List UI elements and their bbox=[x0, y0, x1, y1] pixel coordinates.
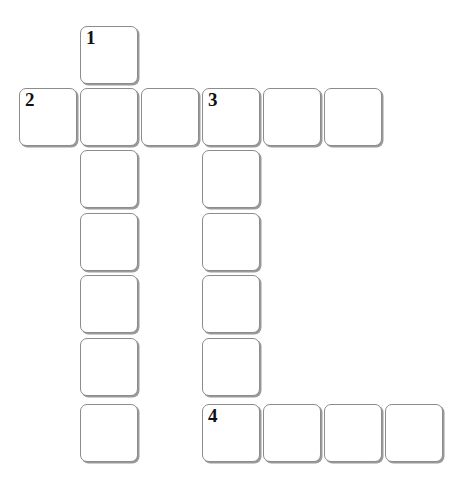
crossword-cell[interactable] bbox=[80, 275, 138, 333]
cell-number-3: 3 bbox=[208, 90, 218, 110]
crossword-cell[interactable] bbox=[80, 150, 138, 208]
crossword-puzzle: 1234 bbox=[0, 0, 466, 488]
crossword-cell[interactable] bbox=[80, 404, 138, 462]
crossword-cell[interactable]: 3 bbox=[202, 88, 260, 146]
crossword-cell[interactable]: 1 bbox=[80, 26, 138, 84]
crossword-cell[interactable] bbox=[324, 404, 382, 462]
cell-number-2: 2 bbox=[25, 90, 35, 110]
crossword-cell[interactable] bbox=[202, 275, 260, 333]
crossword-cell[interactable] bbox=[385, 404, 443, 462]
cell-number-1: 1 bbox=[86, 28, 96, 48]
crossword-cell[interactable] bbox=[80, 88, 138, 146]
cell-number-4: 4 bbox=[208, 406, 218, 426]
crossword-cell[interactable] bbox=[202, 150, 260, 208]
crossword-cell[interactable] bbox=[263, 88, 321, 146]
crossword-cell[interactable]: 4 bbox=[202, 404, 260, 462]
crossword-cell[interactable] bbox=[80, 213, 138, 271]
crossword-cell[interactable] bbox=[202, 213, 260, 271]
crossword-cell[interactable] bbox=[202, 338, 260, 396]
crossword-cell[interactable] bbox=[80, 338, 138, 396]
crossword-cell[interactable] bbox=[141, 88, 199, 146]
crossword-grid: 1234 bbox=[0, 0, 466, 488]
crossword-cell[interactable] bbox=[263, 404, 321, 462]
crossword-cell[interactable] bbox=[324, 88, 382, 146]
crossword-cell[interactable]: 2 bbox=[19, 88, 77, 146]
